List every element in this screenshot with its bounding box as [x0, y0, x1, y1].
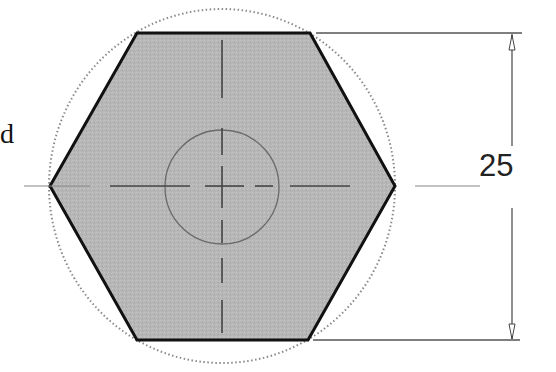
arrow-up-icon: [509, 35, 515, 50]
dimension-line: [509, 34, 515, 339]
cut-off-text: d: [0, 118, 14, 150]
hexagon-drawing: [0, 0, 556, 372]
arrow-down-icon: [509, 324, 515, 339]
dimension-label: 25: [479, 148, 513, 184]
